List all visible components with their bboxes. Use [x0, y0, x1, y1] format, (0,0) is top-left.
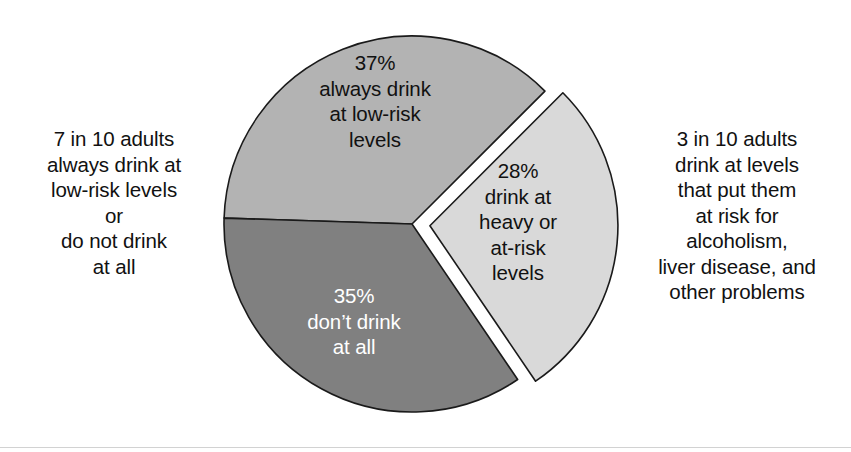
left-annotation: 7 in 10 adults always drink at low-risk …	[8, 126, 220, 279]
bottom-divider	[0, 447, 851, 448]
right-annotation: 3 in 10 adults drink at levels that put …	[626, 126, 848, 305]
slice-label-heavy-drink: 28% drink at heavy or at-risk levels	[455, 158, 581, 286]
slice-label-low-risk: 37% always drink at low-risk levels	[280, 50, 470, 152]
slice-label-no-drink: 35% don’t drink at all	[268, 283, 440, 360]
pie-chart-figure: 37% always drink at low-risk levels 35% …	[0, 0, 851, 452]
